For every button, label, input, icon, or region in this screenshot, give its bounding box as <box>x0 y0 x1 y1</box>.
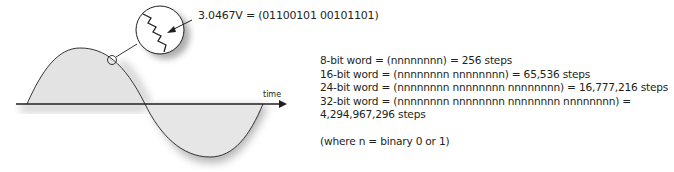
wave-positive-lobe <box>27 48 145 104</box>
time-axis-arrowhead <box>279 100 287 108</box>
info-line-32bit-steps: 4,294,967,296 steps <box>320 108 668 122</box>
bit-depth-info: 8-bit word = (nnnnnnnn) = 256 steps 16-b… <box>320 54 668 149</box>
sample-value-callout: 3.0467V = (01100101 00101101) <box>198 9 378 22</box>
wave-negative-lobe <box>145 104 263 157</box>
info-line-16bit: 16-bit word = (nnnnnnnn nnnnnnnn) = 65,5… <box>320 68 668 82</box>
info-line-8bit: 8-bit word = (nnnnnnnn) = 256 steps <box>320 54 668 68</box>
magnifier-connector <box>116 44 137 57</box>
time-axis-label: time <box>263 90 281 99</box>
info-line-32bit: 32-bit word = (nnnnnnnn nnnnnnnn nnnnnnn… <box>320 95 668 109</box>
magnifier-circle-icon <box>136 6 184 54</box>
info-note: (where n = binary 0 or 1) <box>320 135 668 149</box>
spacer <box>320 122 668 135</box>
info-line-24bit: 24-bit word = (nnnnnnnn nnnnnnnn nnnnnnn… <box>320 81 668 95</box>
